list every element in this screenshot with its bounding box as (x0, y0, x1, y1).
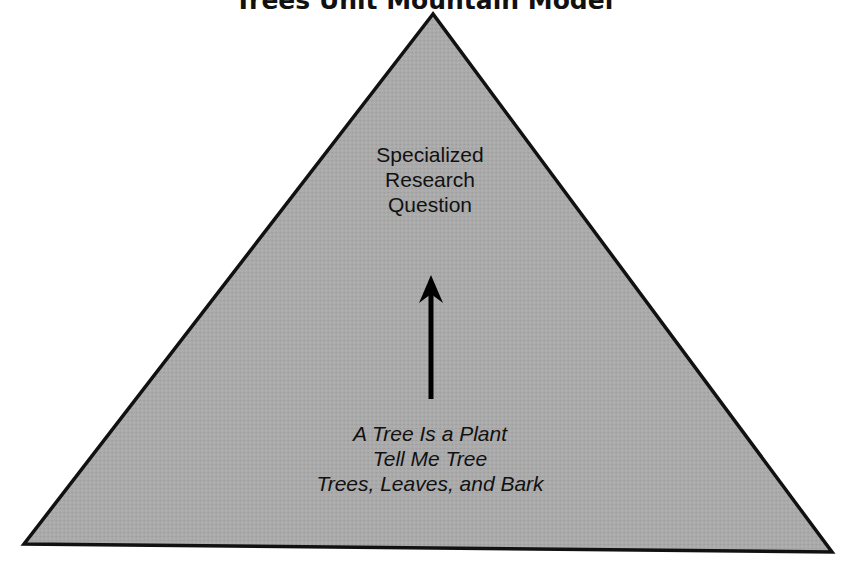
apex-label-line: Question (330, 192, 530, 217)
base-label: A Tree Is a Plant Tell Me Tree Trees, Le… (230, 421, 630, 496)
apex-label: Specialized Research Question (330, 142, 530, 217)
base-label-line: Trees, Leaves, and Bark (230, 471, 630, 496)
base-label-line: Tell Me Tree (230, 446, 630, 471)
apex-label-line: Specialized (330, 142, 530, 167)
apex-label-line: Research (330, 167, 530, 192)
base-label-line: A Tree Is a Plant (230, 421, 630, 446)
